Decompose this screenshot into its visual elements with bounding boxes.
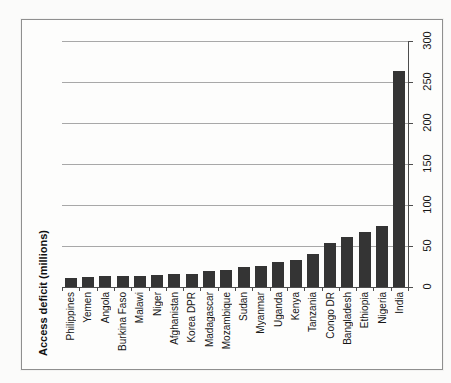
gridline-50 <box>62 246 408 247</box>
category-label-afghanistan: Afghanistan <box>168 292 181 345</box>
category-tick-8 <box>200 287 201 291</box>
category-label-ethiopia: Ethiopia <box>358 292 371 328</box>
value-tick-150 <box>408 164 413 165</box>
category-label-korea-dpr: Korea DPR <box>185 292 198 343</box>
category-tick-16 <box>339 287 340 291</box>
category-tick-14 <box>304 287 305 291</box>
bar-nigeria <box>376 226 388 288</box>
value-axis-title: Access deficit (millions) <box>36 213 50 373</box>
category-tick-6 <box>166 287 167 291</box>
category-label-myanmar: Myanmar <box>254 292 267 334</box>
value-tick-100 <box>408 205 413 206</box>
category-tick-17 <box>356 287 357 291</box>
value-tick-label-200: 200 <box>421 108 434 138</box>
category-tick-2 <box>97 287 98 291</box>
category-tick-9 <box>218 287 219 291</box>
category-tick-0 <box>62 287 63 291</box>
category-tick-20 <box>408 287 409 291</box>
bar-burkina-faso <box>117 276 129 287</box>
bar-mozambique <box>220 270 232 287</box>
bar-korea-dpr <box>186 274 198 287</box>
bar-bangladesh <box>341 237 353 287</box>
gridline-150 <box>62 164 408 165</box>
bar-congo-dr <box>324 243 336 287</box>
category-label-sudan: Sudan <box>237 292 250 321</box>
bar-angola <box>99 276 111 287</box>
value-tick-300 <box>408 41 413 42</box>
category-tick-18 <box>373 287 374 291</box>
category-tick-12 <box>270 287 271 291</box>
category-label-yemen: Yemen <box>81 292 94 323</box>
category-label-philippines: Philippines <box>64 292 77 340</box>
value-tick-label-100: 100 <box>421 190 434 220</box>
value-tick-50 <box>408 246 413 247</box>
bar-uganda <box>272 262 284 287</box>
gridline-100 <box>62 205 408 206</box>
category-label-burkina-faso: Burkina Faso <box>116 292 129 351</box>
value-tick-250 <box>408 82 413 83</box>
category-tick-3 <box>114 287 115 291</box>
bar-ethiopia <box>359 232 371 287</box>
category-tick-19 <box>391 287 392 291</box>
value-tick-label-250: 250 <box>421 67 434 97</box>
bar-yemen <box>82 277 94 287</box>
category-tick-11 <box>252 287 253 291</box>
category-label-mozambique: Mozambique <box>220 292 233 349</box>
category-label-angola: Angola <box>99 292 112 323</box>
bar-niger <box>151 275 163 287</box>
bar-afghanistan <box>168 274 180 287</box>
category-tick-7 <box>183 287 184 291</box>
category-label-congo-dr: Congo DR <box>324 292 337 339</box>
gridline-300 <box>62 41 408 42</box>
category-tick-4 <box>131 287 132 291</box>
bar-malawi <box>134 276 146 287</box>
category-label-madagascar: Madagascar <box>203 292 216 347</box>
category-label-nigeria: Nigeria <box>376 292 389 324</box>
category-tick-10 <box>235 287 236 291</box>
bar-kenya <box>290 260 302 287</box>
value-tick-label-150: 150 <box>421 149 434 179</box>
bar-myanmar <box>255 266 267 287</box>
category-label-kenya: Kenya <box>289 292 302 320</box>
category-tick-15 <box>322 287 323 291</box>
bar-sudan <box>238 267 250 288</box>
category-label-uganda: Uganda <box>272 292 285 327</box>
category-label-niger: Niger <box>151 292 164 316</box>
bar-tanzania <box>307 254 319 287</box>
scanned-chart-page: 050100150200250300 PhilippinesYemenAngol… <box>0 0 451 383</box>
gridline-250 <box>62 82 408 83</box>
category-tick-5 <box>149 287 150 291</box>
value-tick-label-0: 0 <box>421 272 434 302</box>
category-tick-13 <box>287 287 288 291</box>
category-label-malawi: Malawi <box>133 292 146 323</box>
category-label-bangladesh: Bangladesh <box>341 292 354 345</box>
bar-madagascar <box>203 271 215 287</box>
value-tick-label-300: 300 <box>421 26 434 56</box>
gridline-200 <box>62 123 408 124</box>
bar-philippines <box>65 278 77 287</box>
category-label-tanzania: Tanzania <box>306 292 319 332</box>
value-tick-label-50: 50 <box>421 231 434 261</box>
category-label-india: India <box>393 292 406 314</box>
bar-india <box>393 71 405 287</box>
value-tick-200 <box>408 123 413 124</box>
category-tick-1 <box>79 287 80 291</box>
